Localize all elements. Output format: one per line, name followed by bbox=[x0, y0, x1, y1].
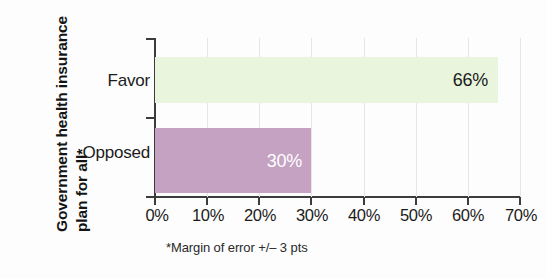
x-axis-line bbox=[154, 196, 520, 198]
category-labels: Favor Opposed bbox=[58, 0, 150, 220]
x-tick-label-30: 30% bbox=[296, 206, 328, 225]
x-tick-label-50: 50% bbox=[400, 206, 432, 225]
plot-area: 66% 30% bbox=[155, 38, 520, 196]
bar-value-favor: 66% bbox=[453, 71, 488, 89]
x-axis-tick-40 bbox=[363, 196, 365, 205]
y-axis-title-container: Government health insurance plan for all… bbox=[0, 0, 62, 240]
bar-favor: 66% bbox=[155, 57, 498, 103]
chart-screenshot: Government health insurance plan for all… bbox=[0, 0, 547, 278]
x-axis-tick-60 bbox=[467, 196, 469, 205]
footnote-margin-of-error: *Margin of error +/– 3 pts bbox=[166, 240, 308, 255]
x-axis-tick-0 bbox=[154, 196, 156, 205]
category-label-opposed: Opposed bbox=[58, 143, 150, 163]
bar-opposed: 30% bbox=[155, 128, 311, 193]
category-label-favor: Favor bbox=[58, 71, 150, 91]
x-tick-label-40: 40% bbox=[348, 206, 380, 225]
x-tick-label-20: 20% bbox=[244, 206, 276, 225]
bar-value-opposed: 30% bbox=[267, 152, 302, 170]
x-axis-tick-30 bbox=[310, 196, 312, 205]
y-axis-tick-top bbox=[146, 38, 155, 40]
gridline-70 bbox=[520, 38, 521, 197]
x-axis-tick-50 bbox=[415, 196, 417, 205]
x-tick-label-0: 0% bbox=[145, 206, 168, 225]
x-axis-tick-70 bbox=[519, 196, 521, 205]
y-axis-tick-middle bbox=[146, 117, 155, 119]
x-axis-tick-20 bbox=[258, 196, 260, 205]
x-tick-label-60: 60% bbox=[452, 206, 484, 225]
x-axis-tick-10 bbox=[206, 196, 208, 205]
x-tick-label-10: 10% bbox=[192, 206, 224, 225]
x-axis-tick-labels: 0% 10% 20% 30% 40% 50% 60% 70% bbox=[0, 206, 547, 230]
x-tick-label-70: 70% bbox=[505, 206, 537, 225]
